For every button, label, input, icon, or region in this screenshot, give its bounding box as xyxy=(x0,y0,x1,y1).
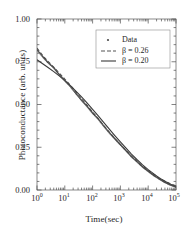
y-axis-title: Photoconductance (arb. units) xyxy=(17,30,27,180)
legend-label-data: Data xyxy=(122,35,137,44)
xtick-label-1e1: 101 xyxy=(53,193,75,203)
legend-label-beta-0-20: β = 0.20 xyxy=(122,56,149,65)
legend-label-beta-0-26: β = 0.26 xyxy=(122,46,149,55)
xtick-mantissa: 10 xyxy=(168,193,177,203)
xtick-label-1e2: 102 xyxy=(81,193,103,203)
xtick-label-1e0: 100 xyxy=(26,193,48,203)
xtick-exponent: 0 xyxy=(40,192,43,198)
xtick-label-1e3: 103 xyxy=(108,193,130,203)
xtick-mantissa: 10 xyxy=(58,193,67,203)
xtick-mantissa: 10 xyxy=(86,193,95,203)
x-axis-title: Time(sec) xyxy=(30,214,178,224)
xtick-exponent: 2 xyxy=(95,192,98,198)
xtick-label-1e5: 105 xyxy=(163,193,185,203)
photoconductance-decay-chart: 1.00 0.75 0.50 0.25 0.00 100 101 102 103… xyxy=(0,0,191,236)
xtick-mantissa: 10 xyxy=(31,193,40,203)
ytick-label-1: 1.00 xyxy=(6,14,30,24)
xtick-mantissa: 10 xyxy=(113,193,122,203)
xtick-mantissa: 10 xyxy=(141,193,150,203)
xtick-label-1e4: 104 xyxy=(136,193,158,203)
xtick-exponent: 5 xyxy=(177,192,180,198)
legend-marker-data xyxy=(107,39,109,41)
xtick-exponent: 3 xyxy=(122,192,125,198)
xtick-exponent: 1 xyxy=(67,192,70,198)
xtick-exponent: 4 xyxy=(150,192,153,198)
data-point xyxy=(175,186,177,188)
